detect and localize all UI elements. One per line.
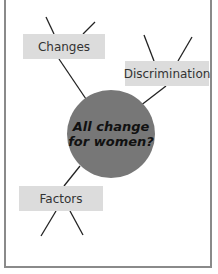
- branch-discrimination: Discrimination: [125, 61, 209, 86]
- central-topic-line2: for women?: [68, 134, 154, 149]
- branch-factors: Factors: [19, 186, 103, 211]
- branch-label: Factors: [40, 192, 83, 206]
- branch-changes: Changes: [23, 34, 105, 59]
- central-topic: All change for women?: [67, 90, 155, 178]
- central-topic-line1: All change: [73, 119, 150, 134]
- branch-label: Discrimination: [124, 67, 211, 81]
- branch-label: Changes: [38, 40, 90, 54]
